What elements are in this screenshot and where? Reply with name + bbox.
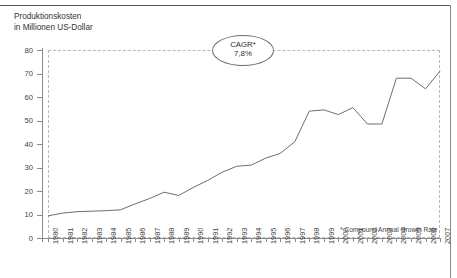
- production-cost-series: [48, 71, 440, 216]
- cagr-value: 7,8%: [213, 49, 273, 59]
- plot-area: 01020304050607080 1980198119821983198419…: [0, 0, 457, 278]
- chart-figure: Produktionskosten in Millionen US-Dollar…: [0, 0, 457, 278]
- cagr-callout: CAGR* 7,8%: [212, 35, 274, 66]
- footnote-text: * Compound Annual Growth Rate: [340, 226, 438, 233]
- cagr-label: CAGR*: [213, 40, 273, 49]
